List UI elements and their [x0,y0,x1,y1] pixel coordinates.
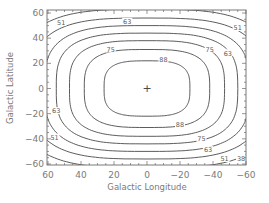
contour-label: 51 [50,134,58,142]
x-tick-label: −20 [171,170,190,180]
contour-label: 75 [107,46,115,54]
contour-label: 63 [224,50,232,58]
contour-label: 51 [57,19,65,27]
contour-label: 75 [197,135,205,143]
contour-chart: 5163758875635188756351386351 6040200−20−… [0,0,269,203]
contour-label: 63 [204,146,212,154]
y-tick-label: −20 [25,109,44,119]
x-tick-label: 20 [108,170,120,180]
y-tick-label: 40 [33,33,45,43]
contour-label: 63 [52,107,60,115]
contour-label: 88 [159,56,167,64]
y-tick-label: 0 [38,84,44,94]
y-axis-title: Galactic Latitude [5,52,15,124]
x-tick-label: −40 [204,170,223,180]
contour-label: 88 [176,121,184,129]
y-tick-label: −40 [25,134,44,144]
y-tick-label: −60 [25,159,44,169]
contour-label: 51 [220,155,228,163]
contour-label: 51 [234,24,242,32]
contour-label: 63 [123,18,131,26]
y-tick-label: 60 [33,8,45,18]
x-tick-label: −60 [237,170,256,180]
contour-label: 75 [206,46,214,54]
y-tick-labels: 6040200−20−40−60 [25,8,44,169]
x-tick-label: 0 [144,170,150,180]
contour-label: 38 [237,155,245,163]
center-marker: + [142,82,151,95]
x-tick-label: 40 [75,170,87,180]
x-axis-title: Galactic Longitude [107,182,186,192]
y-tick-label: 20 [33,58,45,68]
x-tick-label: 60 [42,170,54,180]
x-tick-labels: 6040200−20−40−60 [42,170,255,180]
